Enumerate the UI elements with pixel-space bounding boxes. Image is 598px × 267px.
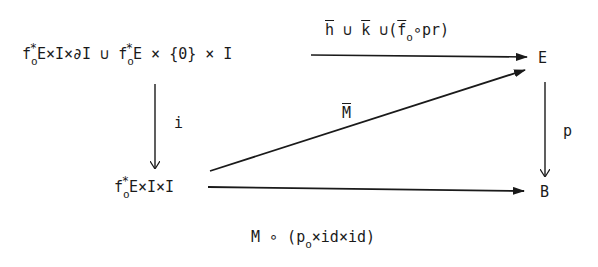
subscript-o: o <box>123 188 130 201</box>
top-arrow <box>311 55 527 57</box>
label-left-arrow-i: i <box>174 116 183 131</box>
subscript-o: o <box>31 55 38 68</box>
label-bottom-arrow: M ∘ (po×id×id) <box>251 230 375 245</box>
subscript-o: o <box>305 238 312 251</box>
union-sign: ∪( <box>370 21 397 39</box>
label-top-arrow: h ∪ k ∪(fo∘pr) <box>325 23 449 38</box>
union-sign: ∪ <box>334 21 361 39</box>
superscript-star: * <box>122 174 129 188</box>
M-compose-p: M ∘ (p <box>251 228 305 246</box>
node-bottom-right-B: B <box>540 185 549 200</box>
diagonal-arrow-m <box>210 70 525 171</box>
node-top-left: fo*E×I×∂I ∪ fo*E × {0} × I <box>22 47 232 62</box>
subscript-o: o <box>406 31 413 44</box>
k-bar: k <box>361 21 370 39</box>
label-diagonal-M-bar: M <box>342 106 351 121</box>
node-text: E×I×∂I ∪ f <box>37 45 127 63</box>
bottom-arrow <box>208 187 524 191</box>
h-bar: h <box>325 21 334 39</box>
node-text: E × {0} × I <box>133 45 232 63</box>
subscript-o: o <box>127 55 134 68</box>
node-top-right-E: E <box>538 51 547 66</box>
superscript-star: * <box>30 41 37 55</box>
label-right-arrow-p: p <box>563 124 572 139</box>
commutative-diagram: fo*E×I×∂I ∪ fo*E × {0} × I E fo*E×I×I B … <box>0 0 598 267</box>
superscript-star: * <box>126 41 133 55</box>
f-bar: f <box>397 21 406 39</box>
diagram-arrows <box>0 0 598 267</box>
node-text: E×I×I <box>129 178 174 196</box>
compose-pr: ∘pr) <box>413 21 449 39</box>
node-bottom-left: fo*E×I×I <box>114 180 174 195</box>
times-id-id: ×id×id) <box>312 228 375 246</box>
